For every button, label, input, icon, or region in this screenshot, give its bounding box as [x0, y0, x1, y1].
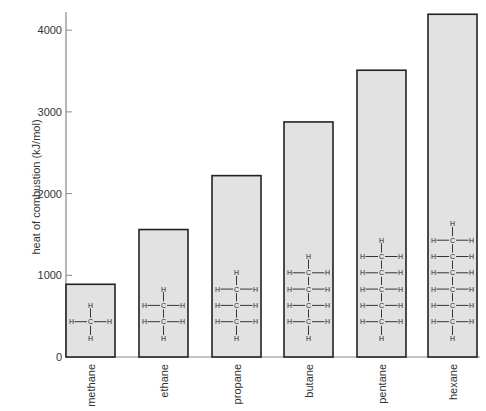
- svg-text:H: H: [469, 237, 474, 244]
- svg-text:H: H: [398, 286, 403, 293]
- svg-text:H: H: [431, 302, 436, 309]
- svg-text:H: H: [450, 220, 455, 227]
- svg-text:C: C: [450, 286, 455, 293]
- svg-text:H: H: [161, 286, 166, 293]
- y-tick-label: 3000: [38, 106, 62, 118]
- y-axis-label: heat of combustion (kJ/mol): [30, 119, 42, 254]
- svg-text:H: H: [253, 302, 258, 309]
- svg-text:H: H: [306, 253, 311, 260]
- x-tick-label: methane: [85, 364, 97, 407]
- svg-text:C: C: [379, 253, 384, 260]
- svg-text:H: H: [398, 253, 403, 260]
- x-tick-label: ethane: [158, 364, 170, 398]
- svg-text:H: H: [469, 269, 474, 276]
- svg-text:C: C: [379, 302, 384, 309]
- svg-text:H: H: [360, 269, 365, 276]
- svg-text:H: H: [360, 286, 365, 293]
- svg-text:H: H: [287, 318, 292, 325]
- x-tick-label: butane: [303, 364, 315, 398]
- bar-butane: HHCHHCHHCHHCHHbutane: [284, 122, 333, 398]
- svg-text:C: C: [450, 237, 455, 244]
- svg-text:H: H: [325, 318, 330, 325]
- svg-text:C: C: [306, 302, 311, 309]
- svg-text:C: C: [450, 318, 455, 325]
- svg-text:C: C: [234, 302, 239, 309]
- svg-text:H: H: [431, 286, 436, 293]
- svg-text:H: H: [431, 237, 436, 244]
- svg-text:C: C: [306, 286, 311, 293]
- svg-text:H: H: [469, 318, 474, 325]
- svg-text:C: C: [234, 286, 239, 293]
- bar-pentane: HHCHHCHHCHHCHHCHHpentane: [357, 70, 406, 404]
- y-tick-label: 0: [56, 351, 62, 363]
- svg-text:H: H: [287, 302, 292, 309]
- svg-text:H: H: [215, 318, 220, 325]
- svg-text:H: H: [287, 269, 292, 276]
- svg-text:C: C: [379, 269, 384, 276]
- svg-text:C: C: [379, 286, 384, 293]
- x-tick-label: hexane: [447, 364, 459, 400]
- svg-text:H: H: [180, 302, 185, 309]
- svg-text:H: H: [325, 302, 330, 309]
- svg-text:C: C: [306, 318, 311, 325]
- bar-propane: HHCHHCHHCHHpropane: [212, 176, 261, 405]
- svg-text:C: C: [234, 318, 239, 325]
- svg-text:H: H: [398, 318, 403, 325]
- svg-text:H: H: [469, 286, 474, 293]
- svg-text:C: C: [161, 318, 166, 325]
- svg-text:H: H: [287, 286, 292, 293]
- svg-text:H: H: [431, 253, 436, 260]
- svg-text:H: H: [88, 335, 93, 342]
- svg-text:C: C: [450, 302, 455, 309]
- svg-text:H: H: [398, 302, 403, 309]
- svg-text:C: C: [161, 302, 166, 309]
- y-tick-label: 1000: [38, 269, 62, 281]
- svg-text:H: H: [398, 269, 403, 276]
- svg-text:H: H: [215, 286, 220, 293]
- svg-text:H: H: [234, 269, 239, 276]
- svg-text:C: C: [450, 253, 455, 260]
- svg-text:H: H: [234, 335, 239, 342]
- svg-text:C: C: [450, 269, 455, 276]
- svg-text:H: H: [379, 237, 384, 244]
- bar-hexane: HHCHHCHHCHHCHHCHHCHHhexane: [428, 14, 477, 400]
- svg-text:H: H: [69, 318, 74, 325]
- svg-text:H: H: [253, 286, 258, 293]
- svg-text:H: H: [107, 318, 112, 325]
- svg-text:C: C: [379, 318, 384, 325]
- svg-text:H: H: [142, 318, 147, 325]
- svg-text:H: H: [161, 335, 166, 342]
- svg-text:H: H: [360, 253, 365, 260]
- heat-of-combustion-bar-chart: 01000200030004000 heat of combustion (kJ…: [0, 0, 486, 411]
- svg-text:H: H: [469, 302, 474, 309]
- bar-methane: HHCHHmethane: [66, 284, 115, 407]
- svg-text:H: H: [325, 269, 330, 276]
- svg-text:H: H: [325, 286, 330, 293]
- svg-text:H: H: [431, 318, 436, 325]
- svg-text:H: H: [450, 335, 455, 342]
- bars: HHCHHmethaneHHCHHCHHethaneHHCHHCHHCHHpro…: [66, 14, 477, 407]
- bar-ethane: HHCHHCHHethane: [139, 230, 188, 398]
- svg-text:C: C: [306, 269, 311, 276]
- svg-text:H: H: [180, 318, 185, 325]
- svg-text:H: H: [469, 253, 474, 260]
- svg-text:H: H: [142, 302, 147, 309]
- svg-text:H: H: [306, 335, 311, 342]
- svg-text:H: H: [431, 269, 436, 276]
- svg-text:H: H: [360, 318, 365, 325]
- svg-text:H: H: [379, 335, 384, 342]
- y-tick-label: 4000: [38, 24, 62, 36]
- x-tick-label: pentane: [376, 364, 388, 404]
- svg-text:H: H: [88, 302, 93, 309]
- svg-text:H: H: [253, 318, 258, 325]
- x-tick-label: propane: [231, 364, 243, 404]
- svg-text:C: C: [88, 318, 93, 325]
- svg-text:H: H: [215, 302, 220, 309]
- svg-text:H: H: [360, 302, 365, 309]
